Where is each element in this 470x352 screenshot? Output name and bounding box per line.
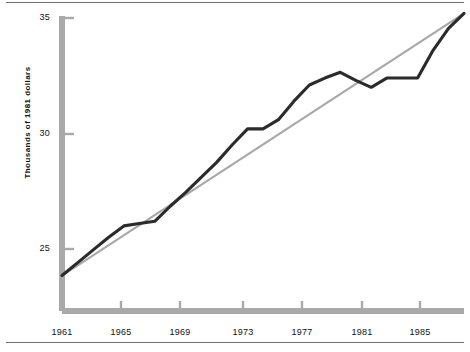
figure-container: Thousands of 1981 dollars 35 30 25 1961 … <box>0 0 470 352</box>
chart-plot-area <box>0 0 470 352</box>
trend-line-series <box>62 13 464 275</box>
